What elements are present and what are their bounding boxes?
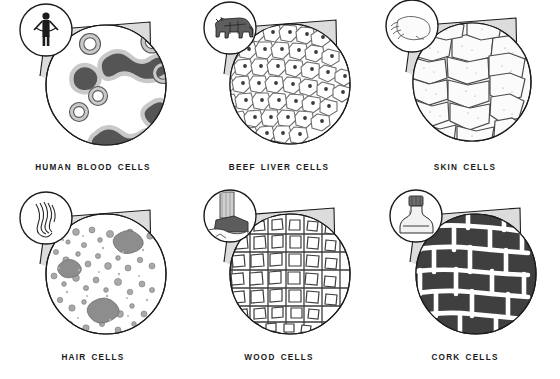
panel-artwork xyxy=(372,0,558,166)
panel-caption: CORKCELLS xyxy=(372,353,558,362)
panel-caption: HUMANBLOODCELLS xyxy=(0,163,186,172)
source-inset xyxy=(204,2,256,54)
source-inset xyxy=(20,192,72,244)
panel-cork-cells: CORKCELLS xyxy=(372,190,558,379)
cells-illustration-plate: HUMANBLOODCELLS xyxy=(0,0,560,379)
panel-artwork xyxy=(372,190,558,356)
panel-wood-cells: WOODCELLS xyxy=(186,190,372,379)
panel-artwork xyxy=(186,0,372,166)
panel-human-blood-cells: HUMANBLOODCELLS xyxy=(0,0,186,189)
panel-artwork xyxy=(186,190,372,356)
panel-caption: BEEFLIVERCELLS xyxy=(186,163,372,172)
panel-caption: SKINCELLS xyxy=(372,163,558,172)
source-inset xyxy=(390,190,442,242)
source-inset xyxy=(204,190,256,243)
source-inset xyxy=(20,4,72,56)
panel-artwork xyxy=(0,190,186,356)
panel-hair-cells: HAIRCELLS xyxy=(0,190,186,379)
panel-caption: HAIRCELLS xyxy=(0,353,186,362)
panel-beef-liver-cells: BEEFLIVERCELLS xyxy=(186,0,372,189)
panel-caption: WOODCELLS xyxy=(186,353,372,362)
source-inset xyxy=(386,0,438,52)
panel-skin-cells: SKINCELLS xyxy=(372,0,558,189)
panel-artwork xyxy=(0,0,186,166)
